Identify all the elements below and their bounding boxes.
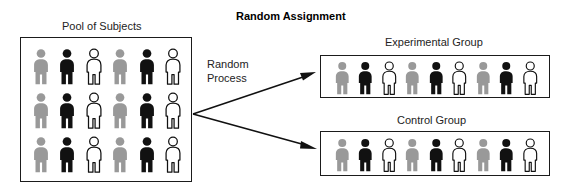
person-body [359,71,372,94]
person-body [34,59,48,84]
person-body [140,147,154,172]
person-body [476,148,489,171]
person-figure-black [356,61,375,95]
person-head [169,137,178,146]
person-figure-white [163,92,183,129]
arrowhead-experimental [300,72,316,81]
person-body [523,148,536,171]
person-body [60,147,74,172]
person-head [338,62,346,70]
person-head [479,62,487,70]
person-figure-black [137,136,157,173]
control-group-row [333,136,539,172]
person-figure-black [57,136,77,173]
person-head [142,137,151,146]
person-figure-gray [474,61,493,95]
person-figure-gray [403,61,422,95]
person-body [383,148,396,171]
person-body [34,147,48,172]
person-head [432,62,440,70]
person-figure-gray [333,61,352,95]
person-body [430,148,443,171]
experimental-group-row [333,59,539,95]
diagram-title: Random Assignment [236,10,346,23]
person-figure-gray [31,92,51,129]
person-figure-white [450,138,469,172]
pool-row [31,47,183,85]
person-body [166,59,180,84]
person-body [60,59,74,84]
person-figure-white [163,136,183,173]
person-figure-black [427,61,446,95]
person-body [166,147,180,172]
person-body [113,59,127,84]
control-group-box [320,131,550,176]
person-figure-gray [403,138,422,172]
person-figure-white [163,48,183,85]
person-head [526,139,534,147]
pool-label: Pool of Subjects [62,20,142,33]
person-head [142,49,151,58]
person-body [60,103,74,128]
person-body [523,71,536,94]
pool-of-subjects-box [20,37,192,182]
person-head [432,139,440,147]
diagram-canvas: Random Assignment Pool of Subjects Rando… [0,0,572,195]
person-figure-white [380,138,399,172]
person-head [89,137,98,146]
person-body [113,103,127,128]
person-body [453,71,466,94]
person-head [63,93,72,102]
person-figure-black [137,48,157,85]
person-figure-gray [31,136,51,173]
random-process-label-line1: Random [207,57,249,71]
person-head [385,62,393,70]
person-figure-black [497,138,516,172]
arrowhead-control [300,141,317,149]
person-body [140,103,154,128]
person-head [63,49,72,58]
person-body [336,71,349,94]
person-head [455,62,463,70]
person-head [385,139,393,147]
person-body [87,103,101,128]
person-body [430,71,443,94]
person-head [169,49,178,58]
person-figure-gray [110,136,130,173]
person-body [359,148,372,171]
random-process-label-line2: Process [207,71,247,85]
person-figure-white [450,61,469,95]
person-figure-black [57,48,77,85]
person-head [116,93,125,102]
person-head [362,62,370,70]
person-head [89,49,98,58]
pool-row [31,135,183,173]
person-head [502,139,510,147]
person-figure-black [137,92,157,129]
person-head [455,139,463,147]
person-head [502,62,510,70]
person-body [166,103,180,128]
person-body [87,59,101,84]
person-body [500,148,513,171]
person-head [63,137,72,146]
person-figure-black [427,138,446,172]
person-head [116,49,125,58]
person-body [453,148,466,171]
person-figure-white [84,136,104,173]
person-head [362,139,370,147]
person-body [113,147,127,172]
person-body [383,71,396,94]
person-head [479,139,487,147]
person-head [169,93,178,102]
person-head [37,49,46,58]
person-figure-gray [110,92,130,129]
person-head [116,137,125,146]
person-figure-black [356,138,375,172]
person-head [89,93,98,102]
person-head [409,139,417,147]
person-body [406,71,419,94]
person-figure-gray [110,48,130,85]
person-figure-gray [474,138,493,172]
person-head [409,62,417,70]
